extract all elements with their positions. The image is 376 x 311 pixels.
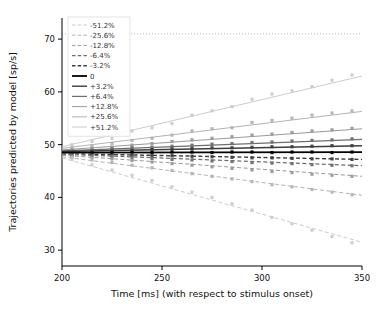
y-tick-label: 30	[44, 245, 55, 255]
trajectory-line-chart: 2002503003503040506070Time [ms] (with re…	[0, 0, 376, 311]
data-point	[330, 235, 333, 238]
series-points--51.2%	[70, 158, 353, 245]
data-point	[150, 179, 153, 182]
x-tick-label: 250	[154, 273, 170, 283]
x-tick-label: 350	[354, 273, 370, 283]
y-axis-label: Trajectories predicted by model [sp/s]	[7, 52, 18, 233]
legend-label: 0	[90, 73, 94, 81]
x-tick-label: 300	[254, 273, 270, 283]
legend-label: -3.2%	[90, 62, 111, 70]
data-point	[130, 174, 133, 177]
data-point	[350, 241, 353, 244]
series-line--3.2%	[62, 154, 362, 160]
data-point	[330, 191, 333, 194]
data-point	[150, 126, 153, 129]
legend-label: +6.4%	[90, 93, 114, 101]
x-axis-label: Time [ms] (with respect to stimulus onse…	[110, 288, 313, 299]
legend-label: -51.2%	[90, 22, 115, 30]
data-point	[270, 92, 273, 95]
data-point	[190, 191, 193, 194]
data-point	[330, 79, 333, 82]
data-point	[250, 121, 253, 124]
data-point	[250, 98, 253, 101]
data-point	[130, 159, 133, 162]
data-point	[270, 119, 273, 122]
legend-label: -25.6%	[90, 32, 115, 40]
x-tick-label: 200	[54, 273, 70, 283]
data-point	[350, 193, 353, 196]
data-point	[350, 73, 353, 76]
y-tick-label: 40	[44, 192, 55, 202]
legend-label: +25.6%	[90, 113, 118, 121]
chart-container: 2002503003503040506070Time [ms] (with re…	[0, 0, 376, 311]
data-point	[90, 158, 93, 161]
data-point	[110, 137, 113, 140]
series-line-0	[62, 152, 362, 153]
data-point	[230, 202, 233, 205]
legend-label: +12.8%	[90, 103, 118, 111]
y-tick-label: 70	[44, 34, 55, 44]
data-point	[170, 122, 173, 125]
legend-label: -12.8%	[90, 42, 115, 50]
plot-area: 2002503003503040506070Time [ms] (with re…	[7, 17, 370, 299]
y-tick-label: 50	[44, 140, 55, 150]
y-tick-label: 60	[44, 87, 55, 97]
legend: -51.2%-25.6%-12.8%-6.4%-3.2%0+3.2%+6.4%+…	[68, 17, 130, 136]
legend-label: -6.4%	[90, 52, 111, 60]
data-point	[310, 113, 313, 116]
legend-label: +51.2%	[90, 124, 118, 132]
legend-label: +3.2%	[90, 83, 114, 91]
data-point	[210, 196, 213, 199]
data-point	[330, 111, 333, 114]
series-line--51.2%	[62, 158, 362, 242]
data-point	[110, 168, 113, 171]
